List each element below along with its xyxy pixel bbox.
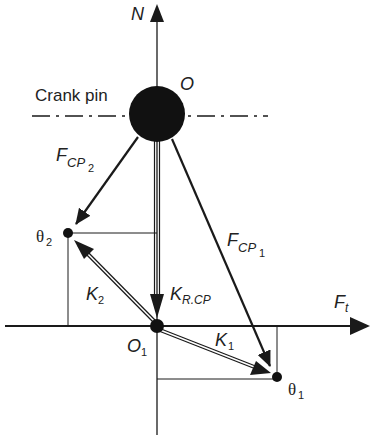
crank-pin-force-diagram: N Crank pin O F CP 2 F CP 1 θ 2 θ 1 K 2 … — [0, 0, 373, 435]
crank-pin-label: Crank pin — [35, 86, 108, 105]
svg-text:1: 1 — [141, 346, 147, 358]
svg-text:1: 1 — [259, 247, 265, 259]
svg-text:θ: θ — [288, 380, 296, 399]
svg-text:2: 2 — [98, 294, 104, 306]
k2-vector — [74, 240, 155, 322]
theta1-label: θ 1 — [288, 380, 304, 401]
svg-text:K: K — [215, 330, 228, 350]
svg-text:θ: θ — [36, 227, 44, 246]
svg-text:1: 1 — [298, 389, 304, 401]
fcp2-vector — [76, 137, 138, 224]
crank-pin-circle — [129, 86, 185, 142]
ft-axis — [5, 317, 370, 335]
theta1-point — [272, 372, 282, 382]
svg-text:R.CP: R.CP — [182, 293, 211, 307]
k2-label: K 2 — [86, 284, 104, 306]
o1-point — [150, 319, 164, 333]
svg-text:CP: CP — [238, 240, 256, 255]
o1-label: O 1 — [127, 336, 147, 358]
n-axis — [150, 4, 164, 435]
ft-axis-arrow-icon — [350, 317, 370, 335]
n-axis-arrow-icon — [150, 4, 164, 22]
theta2-point — [63, 228, 73, 238]
svg-text:t: t — [345, 301, 349, 315]
n-axis-label: N — [131, 4, 145, 24]
svg-text:2: 2 — [88, 162, 94, 174]
ft-label: F t — [334, 292, 349, 315]
k1-label: K 1 — [215, 330, 234, 352]
o-label: O — [180, 74, 194, 94]
fcp2-label: F CP 2 — [56, 145, 94, 174]
svg-text:1: 1 — [228, 340, 234, 352]
k-rcp-label: K R.CP — [170, 284, 211, 307]
theta2-label: θ 2 — [36, 227, 52, 248]
fcp1-label: F CP 1 — [227, 230, 265, 259]
svg-text:O: O — [127, 336, 141, 356]
svg-text:2: 2 — [46, 236, 52, 248]
svg-text:CP: CP — [67, 155, 85, 170]
